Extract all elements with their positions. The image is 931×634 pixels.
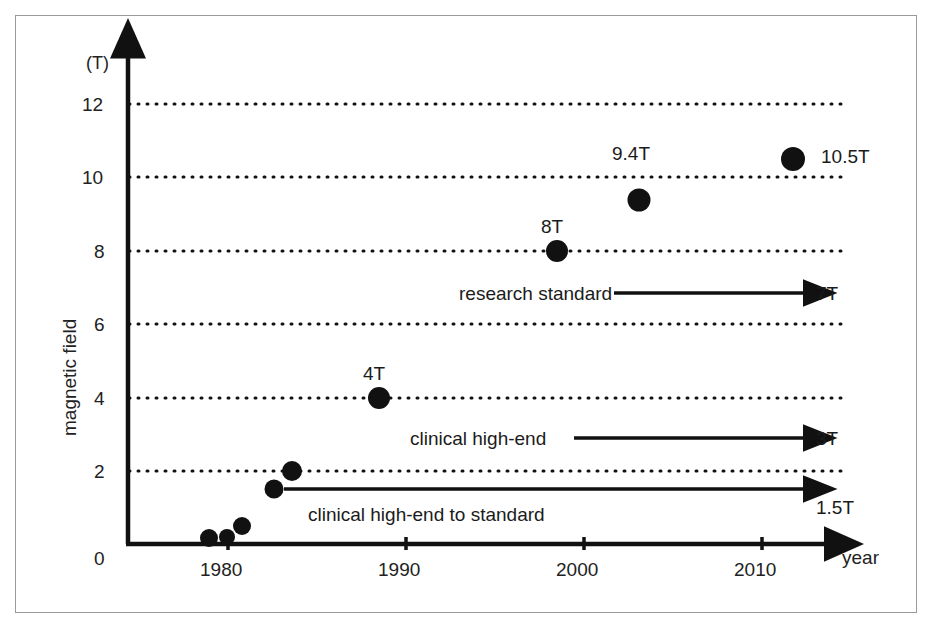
x-tick-label-1980: 1980 [200, 560, 242, 579]
data-point [219, 529, 235, 545]
annotation-value-1-5t: 1.5T [816, 498, 854, 517]
x-tick-label-2000: 2000 [556, 560, 598, 579]
point-label-9-4t: 9.4T [612, 144, 650, 163]
x-tick-label-1990: 1990 [378, 560, 420, 579]
data-point [368, 387, 390, 409]
y-axis-title: magnetic field [60, 319, 79, 436]
x-tick-label-2010: 2010 [734, 560, 776, 579]
data-point [781, 147, 805, 171]
annotation-text-clinical-high-end: clinical high-end [410, 429, 546, 448]
data-point [200, 529, 218, 547]
y-tick-label-6: 6 [94, 315, 105, 334]
y-tick-label-8: 8 [94, 242, 105, 261]
annotation-arrows [284, 293, 806, 489]
figure-page: (T) 0 2 4 6 8 10 12 magnetic field 1980 … [0, 0, 931, 634]
figure-frame: (T) 0 2 4 6 8 10 12 magnetic field 1980 … [15, 15, 917, 613]
annotation-value-7t: 7T [816, 284, 838, 303]
point-label-8t: 8T [541, 217, 563, 236]
y-tick-label-4: 4 [94, 389, 105, 408]
annotation-value-3t: 3T [816, 429, 838, 448]
annotation-text-clinical-high-end-to-standard: clinical high-end to standard [308, 505, 545, 524]
annotation-text-research-standard: research standard [459, 284, 612, 303]
point-label-4t: 4T [363, 364, 385, 383]
y-tick-label-10: 10 [82, 168, 103, 187]
y-tick-label-2: 2 [94, 462, 105, 481]
y-axis-unit-label: (T) [86, 54, 109, 72]
data-point [546, 240, 568, 262]
y-tick-label-0: 0 [94, 549, 105, 568]
data-point [265, 480, 284, 499]
data-points [200, 147, 805, 547]
y-tick-label-12: 12 [82, 95, 103, 114]
data-point [282, 461, 302, 481]
data-point [233, 517, 251, 535]
x-axis-title: year [842, 548, 879, 567]
data-point [628, 189, 651, 212]
point-label-10-5t: 10.5T [821, 147, 870, 166]
